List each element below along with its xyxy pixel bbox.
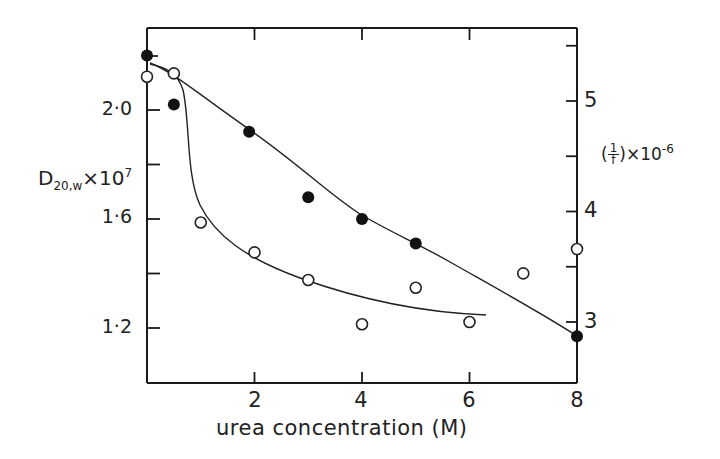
- ylabel-right-open-paren: (: [601, 144, 608, 164]
- left-tick-label: 1·2: [72, 315, 132, 337]
- ylabel-left-exponent: 7: [125, 166, 133, 180]
- left-y-axis-label: D20,w×107: [38, 166, 132, 193]
- open-circle-point: [357, 319, 368, 330]
- open-circle-point: [464, 317, 475, 328]
- ylabel-left-main: D: [38, 166, 53, 190]
- open-circle-point: [410, 282, 421, 293]
- open-circle-point: [249, 247, 260, 258]
- open-circle-point: [142, 71, 153, 82]
- filled-circle-point: [571, 330, 583, 342]
- ylabel-right-exponent: -6: [662, 142, 674, 156]
- filled-circle-point: [302, 191, 314, 203]
- ylabel-right-times: ×10: [626, 144, 662, 164]
- open-series-fit-curve: [150, 64, 486, 315]
- filled-circle-point: [141, 50, 153, 62]
- x-axis-label: urea concentration (M): [216, 416, 468, 440]
- ylabel-left-subscript: 20,w: [53, 179, 82, 193]
- filled-series-fit-curve: [150, 63, 577, 336]
- fit-curves: [150, 63, 577, 336]
- filled-circle-point: [243, 126, 255, 138]
- filled-circle-point: [168, 99, 180, 111]
- ylabel-left-times: ×10: [82, 166, 124, 190]
- filled-circle-point: [410, 238, 422, 250]
- data-points: [141, 50, 583, 343]
- right-tick-label: 4: [584, 198, 597, 222]
- x-tick-label: 2: [240, 388, 270, 412]
- ylabel-right-fraction: 1f: [608, 143, 620, 166]
- open-circle-point: [572, 244, 583, 255]
- open-circle-point: [303, 275, 314, 286]
- open-circle-point: [518, 268, 529, 279]
- x-tick-label: 6: [454, 388, 484, 412]
- filled-circle-point: [356, 213, 368, 225]
- right-tick-label: 3: [584, 309, 597, 333]
- ylabel-right-close-paren: ): [619, 144, 626, 164]
- right-y-axis-label: (1f)×10-6: [601, 142, 674, 166]
- open-circle-point: [195, 217, 206, 228]
- right-tick-label: 5: [584, 88, 597, 112]
- x-tick-label: 8: [562, 388, 592, 412]
- fraction-denominator: f: [608, 155, 620, 166]
- x-tick-label: 4: [346, 388, 376, 412]
- left-tick-label: 1·6: [72, 205, 132, 227]
- left-tick-label: 2·0: [72, 97, 132, 119]
- open-circle-point: [168, 68, 179, 79]
